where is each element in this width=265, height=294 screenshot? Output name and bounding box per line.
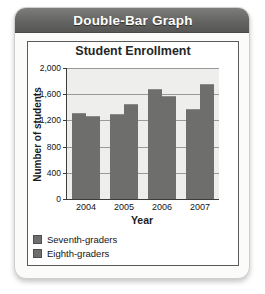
banner-title: Double-Bar Graph: [73, 13, 192, 28]
bar-2004-seventh: [72, 113, 86, 199]
y-axis-tick: [63, 68, 67, 69]
legend-swatch-icon: [33, 249, 42, 258]
plot-area: 04008001,2001,6002,0002004200520062007: [66, 68, 219, 200]
chart-legend: Seventh-gradersEighth-graders: [33, 232, 233, 260]
y-axis-tick-label: 0: [56, 194, 61, 204]
banner-title-bar: Double-Bar Graph: [15, 8, 250, 33]
legend-label: Eighth-graders: [47, 248, 109, 259]
x-axis-title: Year: [66, 214, 218, 226]
bar-2007-eighth: [200, 84, 214, 199]
y-axis-tick-label: 1,200: [40, 115, 61, 125]
gridline: [67, 68, 219, 69]
legend-item: Seventh-graders: [33, 232, 233, 246]
bar-2006-seventh: [148, 89, 162, 199]
y-axis-tick-label: 400: [47, 168, 61, 178]
y-axis-tick-label: 2,000: [40, 63, 61, 73]
bar-2005-eighth: [124, 104, 138, 199]
y-axis-tick: [63, 173, 67, 174]
x-axis-tick-label: 2004: [76, 202, 96, 212]
chart-title: Student Enrollment: [28, 42, 238, 61]
bar-2007-seventh: [186, 109, 200, 199]
legend-swatch-icon: [33, 235, 42, 244]
chart-figure: Student Enrollment Number of students 04…: [27, 41, 239, 266]
y-axis-tick: [63, 120, 67, 121]
y-axis-tick-label: 1,600: [40, 89, 61, 99]
bar-2004-eighth: [86, 116, 100, 199]
y-axis-tick: [63, 147, 67, 148]
x-axis-tick-label: 2006: [152, 202, 172, 212]
y-axis-tick: [63, 199, 67, 200]
x-axis-tick-label: 2005: [114, 202, 134, 212]
y-axis-title-text: Number of students: [32, 87, 43, 181]
y-axis-tick: [63, 94, 67, 95]
graph-card: Double-Bar Graph Student Enrollment Numb…: [14, 7, 250, 279]
gridline: [67, 94, 219, 95]
y-axis-tick-label: 800: [47, 142, 61, 152]
x-axis-tick-label: 2007: [190, 202, 210, 212]
bar-2005-seventh: [110, 114, 124, 199]
legend-label: Seventh-graders: [47, 234, 117, 245]
legend-item: Eighth-graders: [33, 246, 233, 260]
bar-2006-eighth: [162, 96, 176, 199]
